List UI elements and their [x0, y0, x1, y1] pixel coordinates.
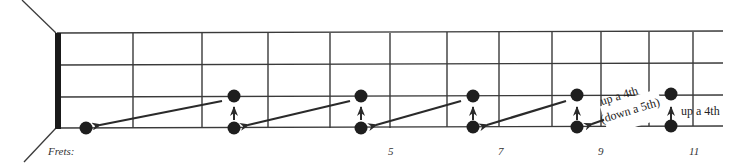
nut	[55, 33, 61, 129]
fret-marker-9: 9	[598, 145, 604, 157]
frets-label: Frets:	[48, 145, 74, 157]
note-dot	[665, 88, 678, 101]
fret-marker-7: 7	[498, 145, 504, 157]
note-dot	[665, 120, 678, 133]
headstock-line-top	[22, 0, 56, 33]
note-dot	[355, 90, 368, 103]
note-dot	[467, 121, 480, 134]
fret-marker-5: 5	[388, 145, 394, 157]
note-dot	[228, 90, 241, 103]
note-dot	[80, 122, 93, 135]
note-dot	[467, 90, 480, 103]
note-dot	[228, 122, 241, 135]
annotation-up-a-4th-vertical: up a 4th	[681, 104, 720, 119]
note-dot	[571, 89, 584, 102]
fret-marker-11: 11	[689, 145, 699, 157]
note-dot	[571, 121, 584, 134]
note-dot	[355, 122, 368, 135]
